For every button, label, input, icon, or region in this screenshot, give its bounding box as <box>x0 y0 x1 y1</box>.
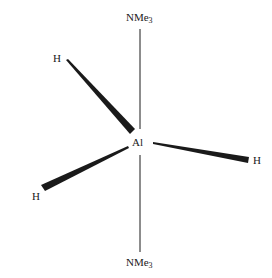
hydrogen-right-label: H <box>253 155 261 166</box>
hydrogen-lower-left-label: H <box>32 191 40 202</box>
wedge-bond-al-h-right <box>153 142 249 163</box>
hydrogen-upper-left-label: H <box>53 53 61 64</box>
nme3-top-label: NMe3 <box>126 12 153 25</box>
nme3-top-subscript: 3 <box>149 16 153 25</box>
molecule-diagram: NMe3 Al H H H NMe3 <box>0 0 272 278</box>
wedge-bond-al-h-upper-left <box>66 59 135 134</box>
nme3-bottom-main: NMe <box>126 256 149 268</box>
nme3-bottom-subscript: 3 <box>149 261 153 270</box>
nme3-bottom-label: NMe3 <box>126 257 153 270</box>
nme3-top-main: NMe <box>126 11 149 23</box>
wedge-bond-al-h-lower-left <box>41 146 129 191</box>
central-atom-label: Al <box>132 137 143 148</box>
